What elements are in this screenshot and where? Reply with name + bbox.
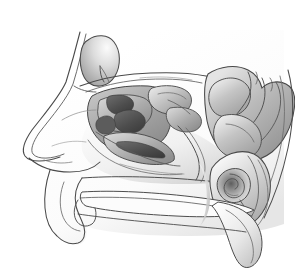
frontal-sinus-cavity — [80, 36, 119, 86]
anatomy-figure-root: Sagittal section of the nasal cavity and… — [0, 0, 303, 280]
anatomy-illustration-canvas — [0, 0, 303, 280]
ethmoid-air-cell-shadow-2 — [114, 110, 145, 133]
frontal-sinus-group — [80, 36, 119, 86]
ethmoid-air-cell-shadow-3 — [96, 116, 116, 134]
